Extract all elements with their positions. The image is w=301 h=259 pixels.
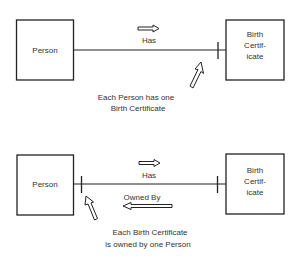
top-has-label: Has <box>142 36 156 45</box>
bottom-owned-by-label: Owned By <box>124 193 161 202</box>
top-birth-certificate-label-1: Birth <box>247 30 263 39</box>
bottom-birth-certificate-label-1: Birth <box>247 166 263 175</box>
top-person-label: Person <box>32 46 57 55</box>
bottom-birth-certificate-label-2: Certif- <box>244 177 266 186</box>
bottom-caption-line-1: Each Birth Certificate <box>112 228 188 237</box>
top-caption-line-1: Each Person has one <box>98 93 175 102</box>
top-caption-line-2: Birth Certificate <box>111 104 166 113</box>
bottom-birth-certificate-label-3: icate <box>247 188 264 197</box>
top-birth-certificate-label-3: icate <box>247 52 264 61</box>
er-diagram: Person Birth Certif- icate Has Each Pers… <box>0 0 301 259</box>
bottom-owned-by-arrow-icon <box>123 203 172 210</box>
top-birth-certificate-entity-box <box>226 20 284 80</box>
bottom-relationship: Person Birth Certif- icate Has Owned By … <box>17 154 284 249</box>
bottom-has-arrow-icon <box>139 160 160 167</box>
top-has-arrow-icon <box>138 25 159 32</box>
top-pointer-arrow-icon <box>190 62 204 88</box>
bottom-person-label: Person <box>32 180 57 189</box>
top-birth-certificate-label-2: Certif- <box>244 41 266 50</box>
bottom-pointer-arrow-icon <box>85 196 98 220</box>
top-relationship: Person Birth Certif- icate Has Each Pers… <box>17 20 285 113</box>
bottom-caption-line-2: is owned by one Person <box>105 240 190 249</box>
bottom-has-label: Has <box>142 171 156 180</box>
